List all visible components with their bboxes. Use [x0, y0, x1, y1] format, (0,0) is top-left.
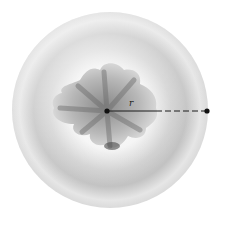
sphere-cavity-diagram: r	[0, 0, 226, 241]
surface-point	[204, 108, 209, 113]
cavity-ridge	[107, 111, 110, 146]
radius-label: r	[129, 98, 134, 108]
cavity-bottom-shadow	[104, 142, 120, 150]
cavity-ridge	[104, 72, 107, 111]
center-point	[104, 108, 109, 113]
cavity-ridge	[60, 108, 107, 111]
